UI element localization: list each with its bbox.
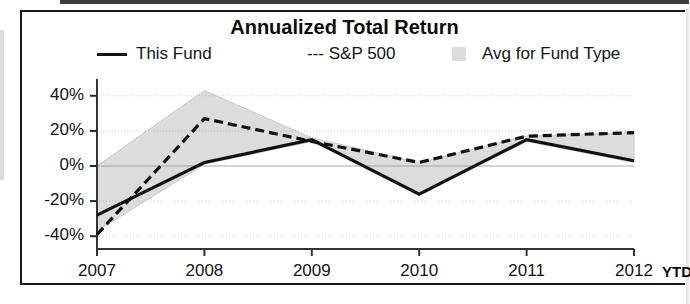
y-axis-tick-label: 20% — [50, 120, 84, 140]
legend-item-sp500: --- S&P 500 — [307, 42, 396, 66]
x-axis-tick-label: 2008 — [164, 261, 244, 281]
y-axis-tick-label: -40% — [44, 225, 84, 245]
scan-top-edge — [60, 0, 689, 4]
y-axis-tick-label: -20% — [44, 190, 84, 210]
y-axis-tick-label: 40% — [50, 85, 84, 105]
legend-label-sp500: --- S&P 500 — [307, 44, 396, 64]
x-axis-tick-label: 2011 — [487, 261, 567, 281]
chart-title: Annualized Total Return — [22, 16, 667, 39]
legend-label-avg-for-fund-type: Avg for Fund Type — [482, 44, 620, 64]
x-axis-tick-label: 2010 — [379, 261, 459, 281]
legend-item-avg-for-fund-type: Avg for Fund Type — [452, 42, 620, 66]
plot-area: 40%20%0%-20%-40%200720082009201020112012… — [22, 70, 667, 285]
x-axis-tick-label: 2009 — [272, 261, 352, 281]
chart-plot-svg — [22, 70, 667, 285]
solid-line-swatch-icon — [97, 53, 127, 56]
scan-left-edge — [0, 30, 4, 180]
legend-item-this-fund: This Fund — [97, 42, 212, 66]
chart-frame: Annualized Total Return This Fund --- S&… — [20, 10, 685, 285]
legend-label-this-fund: This Fund — [136, 44, 212, 64]
y-axis-tick-label: 0% — [59, 155, 84, 175]
area-band-swatch-icon — [452, 47, 466, 61]
avg-for-fund-type-band — [97, 91, 634, 231]
chart-legend: This Fund --- S&P 500 Avg for Fund Type — [22, 42, 667, 66]
x-axis-tick-label: 2007 — [57, 261, 137, 281]
scan-right-edge — [686, 8, 689, 304]
x-axis-ytd-label: YTD — [662, 263, 690, 280]
